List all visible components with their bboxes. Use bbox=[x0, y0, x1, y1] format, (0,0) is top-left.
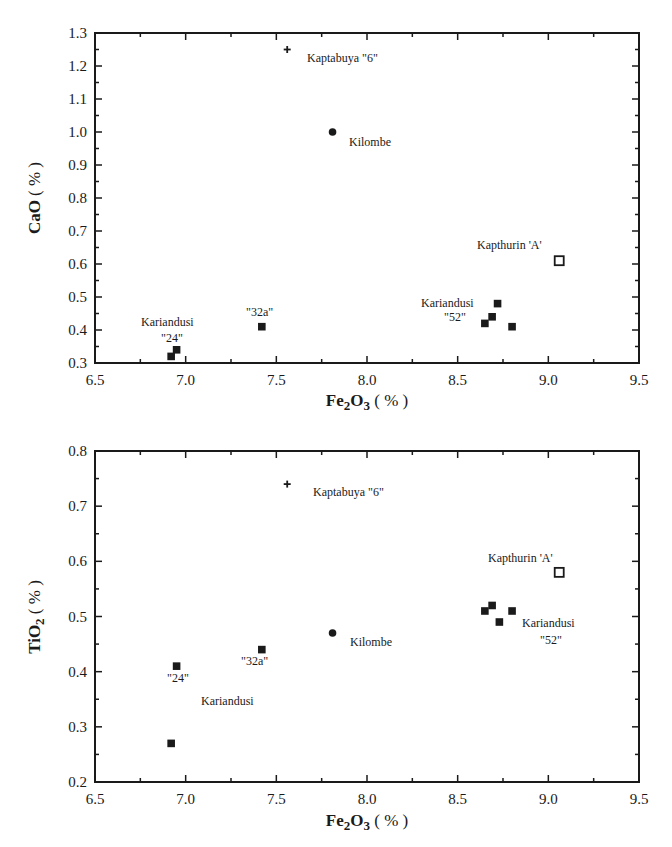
label-kariandusi-mid: Kariandusi bbox=[201, 694, 254, 708]
filled-square-marker bbox=[167, 353, 175, 361]
plus-marker bbox=[284, 481, 291, 488]
x-axis-tick-labels: 6.57.07.58.08.59.09.5 bbox=[86, 372, 649, 388]
x-tick-label: 8.0 bbox=[358, 791, 377, 807]
filled-square-marker bbox=[258, 323, 266, 331]
y-tick-label: 0.3 bbox=[68, 355, 87, 371]
filled-square-marker bbox=[508, 607, 516, 615]
label-kariandusi-24: Kariandusi bbox=[141, 315, 194, 329]
y-tick-label: 0.7 bbox=[68, 498, 87, 514]
x-tick-label: 9.5 bbox=[630, 372, 649, 388]
filled-square-marker bbox=[496, 618, 504, 626]
label-52: "52" bbox=[444, 310, 466, 324]
x-tick-label: 9.5 bbox=[630, 791, 649, 807]
open-square-marker bbox=[555, 256, 564, 265]
label-kapthurin: Kapthurin 'A' bbox=[477, 238, 542, 252]
label-kariandusi-52: Kariandusi bbox=[522, 616, 575, 630]
label-52: "52" bbox=[540, 633, 562, 647]
y-axis-title-unit: ( % ) bbox=[25, 162, 44, 196]
label-24: "24" bbox=[161, 331, 183, 345]
filled-square-marker bbox=[488, 602, 496, 610]
y-tick-label: 0.9 bbox=[68, 157, 87, 173]
x-tick-label: 6.5 bbox=[86, 372, 105, 388]
y-tick-label: 0.8 bbox=[68, 443, 87, 459]
y-tick-label: 0.3 bbox=[68, 719, 87, 735]
x-tick-label: 8.0 bbox=[358, 372, 377, 388]
label-kilombe: Kilombe bbox=[350, 635, 392, 649]
x-title-fe: Fe bbox=[326, 811, 344, 830]
filled-square-marker bbox=[167, 740, 175, 748]
y-axis-tick-labels: 0.20.30.40.50.60.70.8 bbox=[68, 443, 87, 790]
filled-square-marker bbox=[481, 320, 489, 328]
label-32a: "32a" bbox=[246, 305, 273, 319]
x-title-unit: ( % ) bbox=[370, 811, 408, 830]
y-axis-title: TiO2 ( % ) bbox=[25, 580, 47, 654]
y-tick-label: 0.5 bbox=[68, 289, 87, 305]
y-tick-label: 1.0 bbox=[68, 124, 87, 140]
x-title-o: O bbox=[350, 811, 363, 830]
label-kilombe: Kilombe bbox=[349, 135, 391, 149]
x-tick-label: 7.0 bbox=[176, 791, 195, 807]
plot-frame bbox=[95, 33, 639, 363]
x-axis-ticks bbox=[95, 33, 639, 363]
y-tick-label: 1.3 bbox=[68, 25, 87, 41]
x-tick-label: 6.5 bbox=[86, 791, 105, 807]
filled-square-marker bbox=[258, 646, 266, 654]
y-axis-ticks bbox=[95, 33, 639, 363]
x-tick-label: 7.0 bbox=[176, 372, 195, 388]
y-axis-title: CaO( % ) bbox=[25, 162, 44, 234]
y-axis-tick-labels: 0.30.40.50.60.70.80.91.01.11.21.3 bbox=[68, 25, 87, 371]
x-title-unit: ( % ) bbox=[370, 391, 408, 410]
x-axis-title: Fe2O3 ( % ) bbox=[326, 811, 408, 833]
label-32a: "32a" bbox=[241, 654, 268, 668]
x-axis-title: Fe2O3 ( % ) bbox=[326, 391, 408, 413]
filled-square-marker bbox=[508, 323, 516, 331]
figure: 6.57.07.58.08.59.09.5 0.30.40.50.60.70.8… bbox=[0, 0, 672, 847]
y-tick-label: 0.4 bbox=[68, 322, 87, 338]
x-tick-label: 7.5 bbox=[267, 372, 286, 388]
y-tick-label: 0.8 bbox=[68, 190, 87, 206]
x-tick-label: 7.5 bbox=[267, 791, 286, 807]
open-square-marker bbox=[555, 568, 564, 577]
tio2-vs-fe2o3-chart: 6.57.07.58.08.59.09.5 0.20.30.40.50.60.7… bbox=[25, 443, 648, 833]
circle-marker bbox=[329, 629, 337, 637]
label-kariandusi-52: Kariandusi bbox=[421, 296, 474, 310]
filled-square-marker bbox=[173, 662, 181, 670]
x-title-o: O bbox=[350, 391, 363, 410]
filled-square-marker bbox=[494, 300, 502, 308]
cao-vs-fe2o3-chart: 6.57.07.58.08.59.09.5 0.30.40.50.60.70.8… bbox=[25, 25, 648, 413]
label-kaptabuya: Kaptabuya "6" bbox=[307, 51, 378, 65]
x-tick-label: 8.5 bbox=[448, 372, 467, 388]
y-title-tio: TiO bbox=[25, 625, 44, 654]
circle-marker bbox=[329, 128, 337, 136]
y-tick-label: 0.6 bbox=[68, 553, 87, 569]
y-tick-label: 1.1 bbox=[68, 91, 87, 107]
data-points bbox=[167, 46, 563, 360]
x-axis-tick-labels: 6.57.07.58.08.59.09.5 bbox=[86, 791, 649, 807]
filled-square-marker bbox=[488, 313, 496, 321]
filled-square-marker bbox=[481, 607, 489, 615]
x-title-fe: Fe bbox=[326, 391, 344, 410]
y-tick-label: 0.7 bbox=[68, 223, 87, 239]
x-tick-label: 9.0 bbox=[539, 372, 558, 388]
y-tick-label: 0.4 bbox=[68, 664, 87, 680]
y-title-unit: ( % ) bbox=[25, 580, 44, 618]
y-tick-label: 0.2 bbox=[68, 774, 87, 790]
y-tick-label: 0.5 bbox=[68, 609, 87, 625]
filled-square-marker bbox=[173, 346, 181, 354]
plus-marker bbox=[284, 46, 291, 53]
label-kapthurin: Kapthurin 'A' bbox=[488, 551, 553, 565]
y-tick-label: 0.6 bbox=[68, 256, 87, 272]
label-24: "24" bbox=[167, 671, 189, 685]
y-axis-title-main: CaO bbox=[25, 200, 44, 234]
y-tick-label: 1.2 bbox=[68, 58, 87, 74]
x-tick-label: 9.0 bbox=[539, 791, 558, 807]
x-tick-label: 8.5 bbox=[448, 791, 467, 807]
label-kaptabuya: Kaptabuya "6" bbox=[313, 485, 384, 499]
